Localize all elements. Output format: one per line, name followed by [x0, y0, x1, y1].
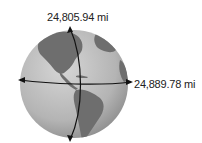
- polar-circumference-label: 24,805.94 mi: [47, 11, 108, 23]
- arrowhead-top: [67, 26, 73, 33]
- arrowhead-bottom: [67, 135, 73, 142]
- arrowhead-right: [126, 79, 133, 85]
- equatorial-circumference-label: 24,889.78 mi: [134, 78, 195, 90]
